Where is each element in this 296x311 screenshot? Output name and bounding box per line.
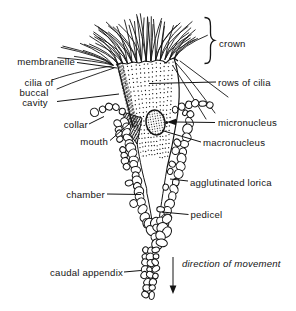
leader-collar <box>89 117 104 125</box>
crown-brace <box>205 18 215 64</box>
label-direction-of-movement: direction of movement <box>182 258 281 269</box>
label-pedicel: pedicel <box>191 209 223 220</box>
ciliate-diagram: membranelle cilia of buccal cavity colla… <box>0 0 296 311</box>
label-mouth: mouth <box>80 136 108 147</box>
membranelle-cilia <box>52 66 114 89</box>
macronucleus-shape <box>144 109 167 137</box>
leader-cilia-buccal <box>57 94 119 102</box>
movement-arrow <box>170 257 177 294</box>
label-caudal-appendix: caudal appendix <box>50 267 123 278</box>
micronucleus-dot <box>165 121 168 124</box>
diagram-canvas: membranelle cilia of buccal cavity colla… <box>0 0 296 311</box>
label-agglutinated-lorica: agglutinated lorica <box>190 177 272 188</box>
label-micronucleus: micronucleus <box>218 117 277 128</box>
leader-caudal-appendix <box>124 271 141 273</box>
label-macronucleus: macronucleus <box>203 137 265 148</box>
label-collar: collar <box>64 119 89 130</box>
label-membranelle: membranelle <box>17 56 75 67</box>
leader-macronucleus <box>162 131 201 143</box>
leader-rows-of-cilia <box>149 82 216 84</box>
caudal-appendix-pebbles <box>139 246 160 300</box>
leader-micronucleus <box>176 122 215 123</box>
crown-cilia <box>58 14 208 65</box>
label-crown: crown <box>219 38 246 49</box>
label-chamber: chamber <box>66 189 105 200</box>
label-rows-of-cilia: rows of cilia <box>218 77 271 88</box>
micronucleus-arrowhead <box>167 119 176 125</box>
leader-chamber <box>107 194 141 195</box>
label-cavity: cavity <box>22 97 48 108</box>
collar-pebbles-left <box>89 102 126 118</box>
